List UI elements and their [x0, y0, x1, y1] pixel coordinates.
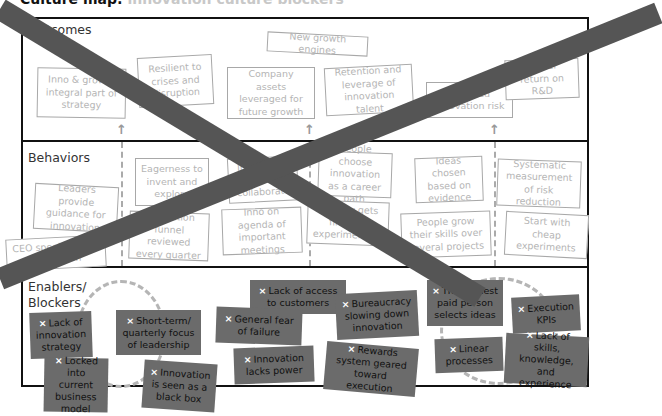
- arrow-up-icon: ↑: [116, 124, 127, 136]
- blocker-x-icon: ×: [432, 285, 440, 296]
- blocker-card: ×Short-term/ quarterly focus of leadersh…: [116, 310, 201, 355]
- outcome-card: New growth engines: [267, 31, 369, 56]
- behavior-card: Inno on agenda of important meetings: [221, 207, 303, 256]
- arrow-up-icon: ↑: [489, 124, 500, 136]
- blocker-x-icon: ×: [55, 355, 63, 366]
- outcome-card: Company assets leveraged for future grow…: [227, 67, 315, 119]
- blocker-card: ×General fear of failure: [215, 307, 302, 346]
- blocker-card: ×Locked into current business model: [44, 357, 109, 412]
- blocker-x-icon: ×: [126, 315, 134, 326]
- arrow-up-icon: ↑: [304, 124, 315, 136]
- blocker-x-icon: ×: [38, 318, 46, 329]
- blocker-x-icon: ×: [224, 313, 232, 324]
- section-label-enablers-1: Enablers/: [28, 279, 86, 295]
- diagram-title: Culture map: innovation culture blockers: [20, 0, 344, 7]
- title-main: Culture map:: [20, 0, 123, 7]
- blocker-card: ×Bureaucracy slowing down innovation: [335, 290, 419, 340]
- blocker-x-icon: ×: [449, 343, 457, 354]
- blocker-card: ×Innovation lacks power: [233, 346, 314, 385]
- column-connector: [121, 142, 123, 266]
- blocker-x-icon: ×: [341, 298, 350, 309]
- blocker-x-icon: ×: [258, 285, 266, 296]
- blocker-card: ×Innovation is seen as a black box: [141, 360, 217, 413]
- blocker-x-icon: ×: [526, 329, 535, 340]
- blocker-x-icon: ×: [517, 303, 526, 314]
- behavior-card: Start with cheap experiments: [504, 211, 589, 259]
- blocker-card: ×Rewards system geared toward execution: [323, 341, 419, 397]
- blocker-card: ×Linear processes: [434, 337, 503, 373]
- divider-outcomes-behaviors: [21, 140, 589, 142]
- behavior-card: Systematic measurement of risk reduction: [496, 159, 582, 209]
- blocker-card: ×Lack of innovation strategy: [29, 311, 93, 359]
- title-sub: innovation culture blockers: [128, 0, 344, 7]
- section-label-behaviors: Behaviors: [28, 150, 90, 166]
- blocker-card: ×Lack of skills, knowledge, and experien…: [504, 333, 590, 387]
- blocker-x-icon: ×: [243, 354, 251, 365]
- behavior-card: Ideas chosen based on evidence: [414, 156, 484, 203]
- section-label-enablers-2: Blockers: [28, 295, 81, 311]
- blocker-x-icon: ×: [150, 366, 159, 378]
- blocker-x-icon: ×: [347, 343, 356, 355]
